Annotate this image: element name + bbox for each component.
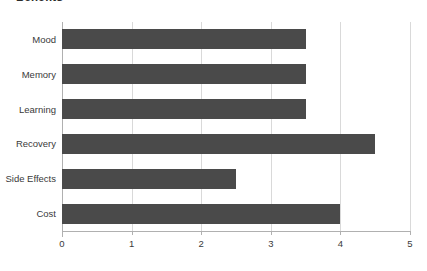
bar-cost[interactable] bbox=[62, 204, 340, 224]
y-tick-label-recovery: Recovery bbox=[0, 127, 56, 162]
bar-row bbox=[62, 196, 410, 231]
x-tick-0 bbox=[62, 231, 63, 235]
x-tick-3 bbox=[271, 231, 272, 235]
x-tick-label-2: 2 bbox=[199, 238, 204, 249]
x-tick-2 bbox=[201, 231, 202, 235]
bar-row bbox=[62, 127, 410, 162]
x-tick-label-1: 1 bbox=[129, 238, 134, 249]
bar-memory[interactable] bbox=[62, 64, 306, 84]
gridline-x-5 bbox=[410, 22, 411, 231]
bar-learning[interactable] bbox=[62, 99, 306, 119]
y-tick-label-learning: Learning bbox=[0, 92, 56, 127]
chart-title: Benefits bbox=[16, 0, 63, 3]
x-tick-label-4: 4 bbox=[338, 238, 343, 249]
x-axis-line bbox=[62, 231, 411, 232]
x-tick-label-0: 0 bbox=[59, 238, 64, 249]
bar-row bbox=[62, 22, 410, 57]
chart-screenshot: Benefits MoodMemoryLearningRecoverySide … bbox=[0, 0, 427, 271]
x-tick-label-3: 3 bbox=[268, 238, 273, 249]
bar-row bbox=[62, 92, 410, 127]
bar-recovery[interactable] bbox=[62, 134, 375, 154]
bar-row bbox=[62, 57, 410, 92]
bar-row bbox=[62, 161, 410, 196]
y-tick-label-mood: Mood bbox=[0, 22, 56, 57]
y-tick-label-side-effects: Side Effects bbox=[0, 161, 56, 196]
y-tick-label-cost: Cost bbox=[0, 196, 56, 231]
x-tick-5 bbox=[410, 231, 411, 235]
x-tick-1 bbox=[132, 231, 133, 235]
x-tick-4 bbox=[340, 231, 341, 235]
bar-side-effects[interactable] bbox=[62, 169, 236, 189]
plot-area bbox=[62, 22, 410, 231]
y-tick-label-memory: Memory bbox=[0, 57, 56, 92]
x-tick-label-5: 5 bbox=[407, 238, 412, 249]
bar-mood[interactable] bbox=[62, 29, 306, 49]
